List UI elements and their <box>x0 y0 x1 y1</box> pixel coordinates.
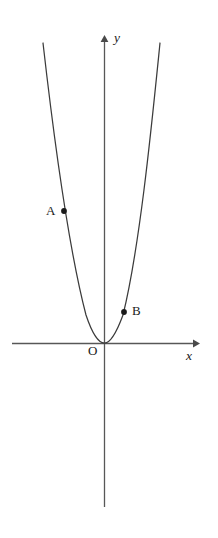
point-a-dot <box>61 208 67 214</box>
point-b-label: B <box>132 304 141 317</box>
point-markers-group <box>61 208 127 315</box>
parabola-curve-group <box>43 43 160 343</box>
parabola-curve <box>43 43 160 343</box>
point-b-dot <box>121 309 127 315</box>
point-a-label: A <box>46 204 55 217</box>
parabola-figure: y x O A B <box>0 0 218 538</box>
y-axis-label: y <box>114 31 120 45</box>
origin-label: O <box>88 344 97 357</box>
x-axis-label: x <box>186 349 192 363</box>
arrow-up-icon <box>101 35 109 42</box>
arrow-right-icon <box>193 339 200 347</box>
figure-canvas <box>0 0 218 538</box>
y-axis-group <box>101 35 109 507</box>
